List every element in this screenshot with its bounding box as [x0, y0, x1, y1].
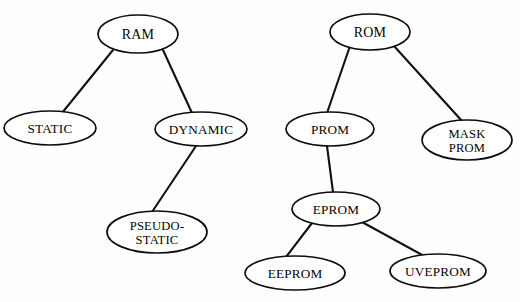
- node-label-line: EEPROM: [268, 266, 323, 281]
- node-label-dynamic: DYNAMIC: [169, 122, 233, 137]
- memory-classification-diagram: RAMSTATICDYNAMICPSEUDO-STATICROMPROMMASK…: [0, 0, 520, 302]
- edge-eprom-uveprom: [362, 222, 424, 256]
- edge-eprom-eeprom: [286, 223, 312, 257]
- edge-ram-static: [62, 50, 113, 113]
- nodes-group: RAMSTATICDYNAMICPSEUDO-STATICROMPROMMASK…: [4, 14, 512, 290]
- node-label-eprom: EPROM: [313, 202, 360, 217]
- node-label-line: DYNAMIC: [169, 122, 233, 137]
- node-label-line: EPROM: [313, 202, 360, 217]
- node-pseudo-static[interactable]: PSEUDO-STATIC: [107, 211, 207, 253]
- node-label-line: ROM: [354, 25, 387, 40]
- edge-rom-mask-prom: [394, 46, 462, 121]
- node-label-line: RAM: [122, 27, 155, 42]
- node-label-ram: RAM: [122, 27, 155, 42]
- node-uveprom[interactable]: UVEPROM: [390, 254, 486, 288]
- node-label-pseudo-static: PSEUDO-STATIC: [130, 219, 185, 248]
- node-label-line: STATIC: [136, 233, 179, 247]
- node-label-line: PSEUDO-: [130, 219, 185, 233]
- node-mask-prom[interactable]: MASKPROM: [422, 120, 512, 160]
- edge-ram-dynamic: [163, 50, 192, 113]
- node-dynamic[interactable]: DYNAMIC: [155, 112, 247, 146]
- edge-dynamic-pseudo: [152, 146, 196, 212]
- edge-prom-eprom: [327, 146, 333, 192]
- node-ram[interactable]: RAM: [98, 15, 178, 53]
- node-label-uveprom: UVEPROM: [405, 264, 471, 279]
- node-label-line: UVEPROM: [405, 264, 471, 279]
- node-eprom[interactable]: EPROM: [292, 192, 380, 226]
- node-rom[interactable]: ROM: [330, 14, 410, 50]
- node-label-eeprom: EEPROM: [268, 266, 323, 281]
- node-label-prom: PROM: [311, 122, 349, 137]
- node-prom[interactable]: PROM: [286, 112, 374, 146]
- node-label-line: MASK: [448, 127, 485, 141]
- node-label-mask-prom: MASKPROM: [448, 127, 485, 156]
- diagram-svg-canvas: RAMSTATICDYNAMICPSEUDO-STATICROMPROMMASK…: [0, 0, 520, 302]
- edge-rom-prom: [327, 46, 350, 113]
- node-label-line: PROM: [311, 122, 349, 137]
- node-eeprom[interactable]: EEPROM: [245, 256, 345, 290]
- node-label-rom: ROM: [354, 25, 387, 40]
- node-label-line: STATIC: [28, 121, 73, 136]
- node-label-static: STATIC: [28, 121, 73, 136]
- node-label-line: PROM: [449, 141, 486, 155]
- node-static[interactable]: STATIC: [4, 111, 96, 145]
